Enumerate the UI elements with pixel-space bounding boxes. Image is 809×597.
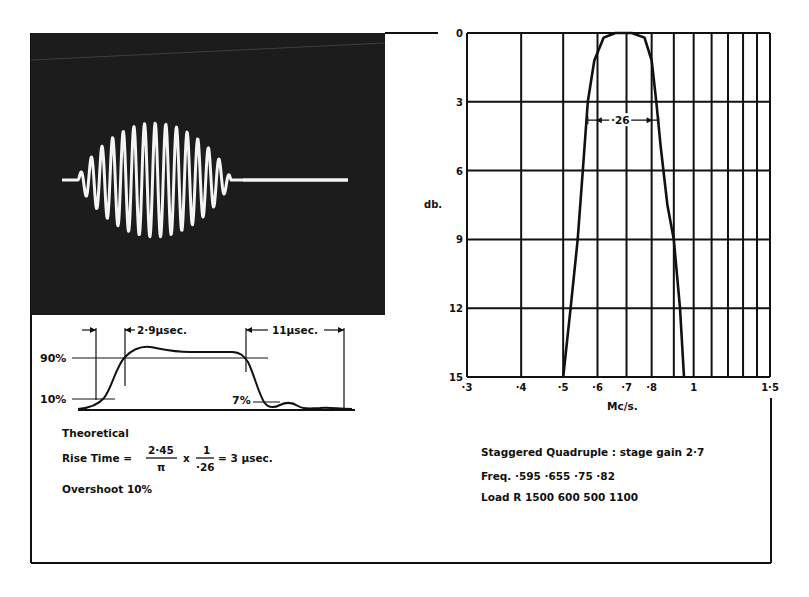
x-tick-label: ·4 bbox=[516, 382, 527, 393]
figure-canvas: 90% 10% 7% 2·9µsec. 11µsec. Theoretical … bbox=[0, 0, 809, 597]
y-tick-label: 6 bbox=[456, 166, 463, 177]
label-90-percent: 90% bbox=[40, 352, 66, 365]
fraction1-denominator: π bbox=[157, 461, 165, 473]
frequency-response-chart: 03691215·3·4·5·6·7·811·5·26 bbox=[449, 28, 779, 393]
x-tick-label: 1 bbox=[690, 382, 697, 393]
decay-time-label: 11µsec. bbox=[272, 324, 318, 336]
multiply-sign: x bbox=[183, 452, 190, 464]
theoretical-heading: Theoretical bbox=[62, 427, 129, 439]
y-axis-label: db. bbox=[424, 199, 442, 210]
label-10-percent: 10% bbox=[40, 393, 66, 406]
y-tick-label: 9 bbox=[456, 234, 463, 245]
fraction1-numerator: 2·45 bbox=[148, 444, 174, 456]
bandwidth-label: ·26 bbox=[611, 114, 630, 126]
x-axis-label: Mc/s. bbox=[607, 400, 638, 412]
x-tick-label: ·8 bbox=[646, 382, 657, 393]
oscilloscope-photo bbox=[31, 33, 385, 315]
y-tick-label: 0 bbox=[456, 28, 463, 39]
y-tick-label: 3 bbox=[456, 97, 463, 108]
stagger-description: Staggered Quadruple : stage gain 2·7 bbox=[481, 446, 704, 458]
overshoot-label: Overshoot 10% bbox=[62, 483, 153, 495]
x-tick-label: ·3 bbox=[462, 382, 473, 393]
rise-time-prefix: Rise Time = bbox=[62, 452, 132, 464]
x-tick-label: ·5 bbox=[558, 382, 569, 393]
rise-time-result: = 3 µsec. bbox=[218, 452, 273, 464]
response-curve bbox=[563, 33, 684, 377]
y-tick-label: 12 bbox=[449, 303, 463, 314]
load-resistance-list: Load R 1500 600 500 1100 bbox=[481, 491, 638, 503]
x-tick-label: 1·5 bbox=[761, 382, 779, 393]
fraction2-numerator: 1 bbox=[203, 444, 210, 456]
pulse-diagram bbox=[72, 327, 355, 410]
fraction2-denominator: ·26 bbox=[196, 461, 215, 473]
rise-time-label: 2·9µsec. bbox=[137, 324, 187, 336]
label-7-percent: 7% bbox=[232, 394, 251, 407]
x-tick-label: ·6 bbox=[592, 382, 603, 393]
frequency-list: Freq. ·595 ·655 ·75 ·82 bbox=[481, 470, 615, 482]
x-tick-label: ·7 bbox=[621, 382, 632, 393]
